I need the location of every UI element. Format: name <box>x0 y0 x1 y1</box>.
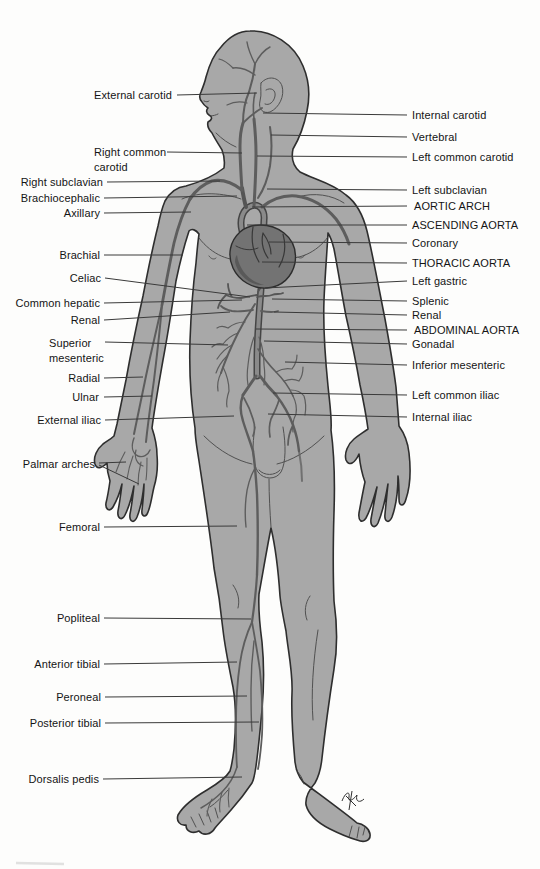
artery-label-inferior-mesenteric: Inferior mesenteric <box>412 358 505 373</box>
artery-label-radial: Radial <box>68 371 100 386</box>
leader-line-dorsalis-pedis <box>103 777 242 779</box>
body-figure <box>0 0 540 869</box>
artery-label-left-subclavian: Left subclavian <box>412 183 487 198</box>
artery-label-brachiocephalic: Brachiocephalic <box>21 191 100 206</box>
scan-smudge <box>16 863 64 864</box>
artery-label-left-common-carotid: Left common carotid <box>412 150 514 165</box>
leader-line-peroneal <box>105 696 247 697</box>
leader-line-anterior-tibial <box>104 662 237 664</box>
artery-label-popliteal: Popliteal <box>57 611 100 626</box>
artery-label-ulnar: Ulnar <box>72 390 99 405</box>
artery-label-renal-right: Renal <box>412 308 441 323</box>
artery-label-palmar-arches: Palmar arches <box>23 457 95 472</box>
artery-label-thoracic-aorta: THORACIC AORTA <box>412 256 510 271</box>
artery-label-dorsalis-pedis: Dorsalis pedis <box>29 772 99 787</box>
artery-label-posterior-tibial: Posterior tibial <box>30 716 101 731</box>
artery-label-celiac: Celiac <box>70 271 101 286</box>
artist-signature <box>342 791 364 810</box>
artery-label-external-carotid: External carotid <box>94 88 172 103</box>
artery-label-abdominal-aorta: ABDOMINAL AORTA <box>414 323 519 338</box>
artery-label-left-gastric: Left gastric <box>412 274 467 289</box>
artery-label-renal-left: Renal <box>71 313 100 328</box>
artery-label-right-common-carotid: Right common carotid <box>94 145 166 175</box>
heart <box>230 225 296 288</box>
artery-label-brachial: Brachial <box>59 248 100 263</box>
artery-label-right-subclavian: Right subclavian <box>21 175 103 190</box>
artery-label-external-iliac: External iliac <box>37 413 101 428</box>
artery-label-ascending-aorta: ASCENDING AORTA <box>412 218 518 233</box>
artery-label-femoral: Femoral <box>59 520 100 535</box>
artery-label-anterior-tibial: Anterior tibial <box>34 657 100 672</box>
artery-label-internal-iliac: Internal iliac <box>412 410 472 425</box>
artery-label-superior-mesenteric: Superior mesenteric <box>49 336 104 366</box>
artery-label-splenic: Splenic <box>412 294 449 309</box>
artery-label-coronary: Coronary <box>412 236 458 251</box>
anatomical-diagram: External carotidRight common carotidRigh… <box>0 0 540 869</box>
artery-label-left-common-iliac: Left common iliac <box>412 388 499 403</box>
artery-label-peroneal: Peroneal <box>56 690 101 705</box>
artery-label-common-hepatic: Common hepatic <box>15 296 100 311</box>
artery-label-axillary: Axillary <box>64 206 100 221</box>
artery-label-gonadal: Gonadal <box>412 337 454 352</box>
artery-label-vertebral: Vertebral <box>412 130 457 145</box>
artery-label-aortic-arch: AORTIC ARCH <box>414 199 490 214</box>
artery-label-internal-carotid: Internal carotid <box>412 108 486 123</box>
